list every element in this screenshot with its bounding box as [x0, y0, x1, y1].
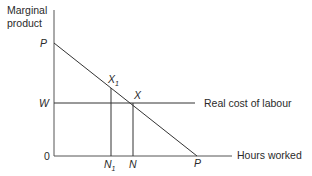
point-x1-label: X1 [107, 73, 119, 87]
p-top-label: P [40, 37, 47, 49]
n1-label: N1 [104, 158, 116, 172]
wage-label: W [39, 97, 50, 109]
y-axis-label-line2: product [7, 17, 42, 29]
origin-label: 0 [44, 150, 50, 162]
real-cost-of-labour-label: Real cost of labour [204, 97, 292, 109]
marginal-product-line [54, 43, 197, 156]
marginal-product-diagram: Marginal product P W 0 X1 X N1 N P Real … [0, 0, 312, 176]
x-axis-label: Hours worked [237, 149, 302, 161]
y-axis-label-line1: Marginal [7, 4, 47, 16]
n-label: N [129, 158, 137, 170]
p-bottom-label: P [194, 157, 201, 169]
point-x-label: X [133, 89, 142, 101]
